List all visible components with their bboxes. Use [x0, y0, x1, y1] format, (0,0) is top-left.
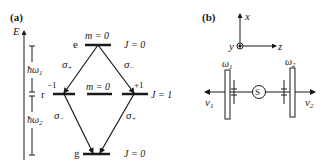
level-r-m-right: +1 — [134, 80, 144, 91]
level-g-name: g — [74, 148, 80, 159]
source-label: S — [255, 87, 260, 98]
level-r-m-left: −1 — [47, 80, 57, 91]
axis-y-label: y — [229, 41, 234, 52]
photon-1-label: ν1 — [205, 97, 213, 112]
filter-plate-2 — [290, 68, 295, 117]
panel-b-label: (b) — [202, 12, 215, 23]
level-r-J: J = 1 — [151, 89, 172, 100]
level-e-J: J = 0 — [124, 39, 145, 50]
transition-label-e-r-right: σ− — [124, 59, 134, 74]
energy-gap-2-label: ħω2 — [27, 114, 43, 129]
coordinate-axes — [237, 14, 276, 49]
transition-label-r-left-g: σ− — [54, 110, 64, 125]
level-e-m: m = 0 — [85, 30, 109, 41]
filter-2-label: ω2 — [285, 56, 296, 71]
level-g-J: J = 0 — [124, 148, 145, 159]
energy-gap-1-label: ħω1 — [27, 64, 43, 79]
level-r-name: r — [41, 89, 45, 100]
transition-label-e-r-left: σ+ — [62, 59, 72, 74]
level-e-name: e — [73, 39, 78, 50]
photon-2-label: ν2 — [305, 97, 313, 112]
axis-z-label: z — [278, 41, 282, 52]
panel-a-label: (a) — [10, 12, 23, 23]
level-r-m-mid: m = 0 — [86, 81, 110, 92]
axis-x-label: x — [245, 11, 250, 22]
transition-label-r-right-g: σ+ — [126, 110, 136, 125]
filter-1-label: ω1 — [222, 58, 233, 73]
energy-axis-label: E — [13, 26, 20, 37]
filter-plate-1 — [225, 70, 230, 119]
